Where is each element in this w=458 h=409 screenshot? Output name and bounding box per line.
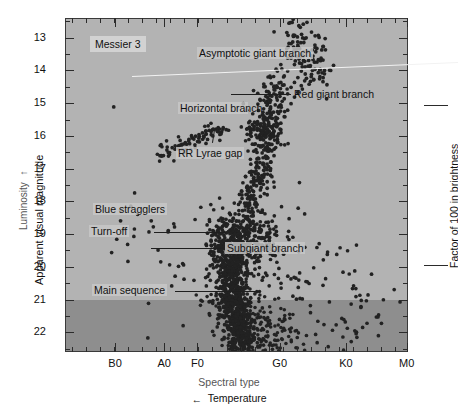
star-point <box>239 125 243 129</box>
star-point <box>274 333 278 337</box>
star-point <box>242 286 246 290</box>
x-axis-minor-tick <box>269 347 270 352</box>
x-axis-top-major-tick <box>280 18 281 27</box>
star-point <box>276 140 280 144</box>
star-point <box>240 270 244 274</box>
star-point <box>318 77 322 81</box>
star-point <box>321 283 325 287</box>
star-point <box>255 161 259 165</box>
x-axis-tick-label: B0 <box>95 357 135 369</box>
star-point <box>232 237 236 241</box>
luminosity-axis-text: Luminosity <box>18 182 29 230</box>
star-point <box>246 149 250 153</box>
star-point <box>266 220 270 224</box>
star-point <box>177 264 181 268</box>
star-point <box>355 335 359 339</box>
star-point <box>254 172 258 176</box>
star-point <box>321 80 325 84</box>
star-point <box>242 214 246 218</box>
star-point <box>309 304 313 308</box>
star-point <box>216 317 220 321</box>
star-point <box>219 216 223 220</box>
y-axis-right-minor-tick <box>403 54 408 55</box>
star-point <box>346 326 350 330</box>
star-point <box>303 72 307 76</box>
star-point <box>257 157 261 161</box>
star-point <box>275 96 279 100</box>
star-point <box>218 139 222 143</box>
star-point <box>218 305 222 309</box>
star-point <box>283 115 287 119</box>
star-point <box>225 297 229 301</box>
star-point <box>237 209 241 213</box>
star-point <box>245 292 249 296</box>
y-axis-right-major-tick <box>399 136 408 137</box>
star-point <box>274 225 278 229</box>
star-point <box>219 313 223 317</box>
star-point <box>270 175 274 179</box>
star-point <box>253 267 257 271</box>
star-point <box>270 219 274 223</box>
x-axis-top-major-tick <box>164 18 165 27</box>
star-point <box>115 237 119 241</box>
star-point <box>323 37 327 41</box>
y-axis-major-tick <box>65 103 74 104</box>
star-point <box>252 175 256 179</box>
star-point <box>222 330 226 334</box>
star-point <box>326 250 330 254</box>
star-point <box>234 319 238 323</box>
star-point <box>244 264 248 268</box>
star-point <box>273 297 277 301</box>
star-point <box>214 265 218 269</box>
star-point <box>247 121 251 125</box>
star-point <box>302 342 306 346</box>
star-point <box>248 309 252 313</box>
star-point <box>259 340 263 344</box>
star-point <box>273 273 277 277</box>
star-point <box>236 301 240 305</box>
star-point <box>249 157 253 161</box>
star-point <box>279 143 283 147</box>
star-point <box>288 313 292 317</box>
star-point <box>301 36 305 40</box>
star-point <box>361 326 365 330</box>
y-axis-minor-tick <box>65 316 70 317</box>
star-point <box>276 323 280 327</box>
star-point <box>256 344 260 348</box>
x-axis-top-minor-tick <box>100 18 101 23</box>
x-axis-top-minor-tick <box>227 18 228 23</box>
star-point <box>244 203 248 207</box>
star-point <box>292 276 296 280</box>
star-point <box>349 340 353 344</box>
star-point <box>267 97 271 101</box>
star-point <box>258 309 262 313</box>
star-point <box>325 83 329 87</box>
star-point <box>256 333 260 337</box>
star-point <box>119 219 123 223</box>
star-point <box>193 218 197 222</box>
star-point <box>259 186 263 190</box>
x-axis-top-minor-tick <box>255 18 256 23</box>
star-point <box>353 329 357 333</box>
star-point <box>151 225 155 229</box>
x-axis-minor-tick <box>100 347 101 352</box>
star-point <box>279 63 283 67</box>
x-axis-minor-tick <box>128 347 129 352</box>
star-point <box>240 258 244 262</box>
star-point <box>297 24 301 28</box>
star-point <box>295 329 299 333</box>
star-point <box>211 263 215 267</box>
y-axis-minor-tick <box>65 120 70 121</box>
star-point <box>289 338 293 342</box>
annotation-rr-lyrae-gap: RR Lyrae gap <box>176 147 244 159</box>
messier-3-badge: Messier 3 <box>90 36 146 52</box>
star-point <box>315 60 319 64</box>
star-point <box>223 259 227 263</box>
star-point <box>287 230 291 234</box>
star-point <box>287 335 291 339</box>
star-point <box>172 222 176 226</box>
x-axis-major-tick <box>115 343 116 352</box>
star-point <box>313 46 317 50</box>
star-point <box>231 217 235 221</box>
star-point <box>220 226 224 230</box>
